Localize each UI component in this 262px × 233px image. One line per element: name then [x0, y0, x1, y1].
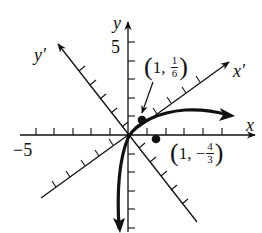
point-a-open-paren: (: [144, 52, 153, 81]
point-a-fraction: 16: [171, 55, 179, 79]
point-b-label: (1, −43): [170, 140, 223, 166]
point-a-frac-num: 1: [171, 55, 179, 68]
point-b-frac-num: 4: [206, 141, 214, 154]
point-b-frac-sign: −: [196, 144, 206, 163]
point-b-close-paren: ): [215, 138, 224, 167]
y-axis-label: y: [113, 14, 121, 32]
x-tick-label: −5: [13, 141, 32, 159]
point-a-close-paren: ): [179, 52, 188, 81]
point-b-x: 1: [179, 144, 188, 163]
x-axis: [20, 128, 255, 135]
x-prime-axis-label: x′: [233, 62, 245, 80]
x-axis-label: x: [246, 116, 254, 134]
point-a-dot: [138, 116, 147, 125]
point-a-frac-den: 6: [171, 68, 179, 80]
point-a-x: 1: [153, 58, 162, 77]
diagram-canvas: [0, 0, 262, 233]
y-axis: [128, 22, 135, 232]
point-b-frac-den: 3: [206, 154, 214, 166]
point-b-dot: [152, 135, 161, 144]
point-b-open-paren: (: [170, 138, 179, 167]
y-prime-axis-label: y′: [34, 46, 46, 64]
point-b-fraction: 43: [206, 141, 214, 165]
point-a-label: (1, 16): [144, 54, 188, 80]
diagram-stage: y 5 y′ x′ x −5 (1, 16) (1, −43): [0, 0, 262, 233]
y-tick-label: 5: [111, 38, 120, 56]
parabola-curve: [118, 110, 228, 228]
leader-arrow: [142, 82, 153, 113]
